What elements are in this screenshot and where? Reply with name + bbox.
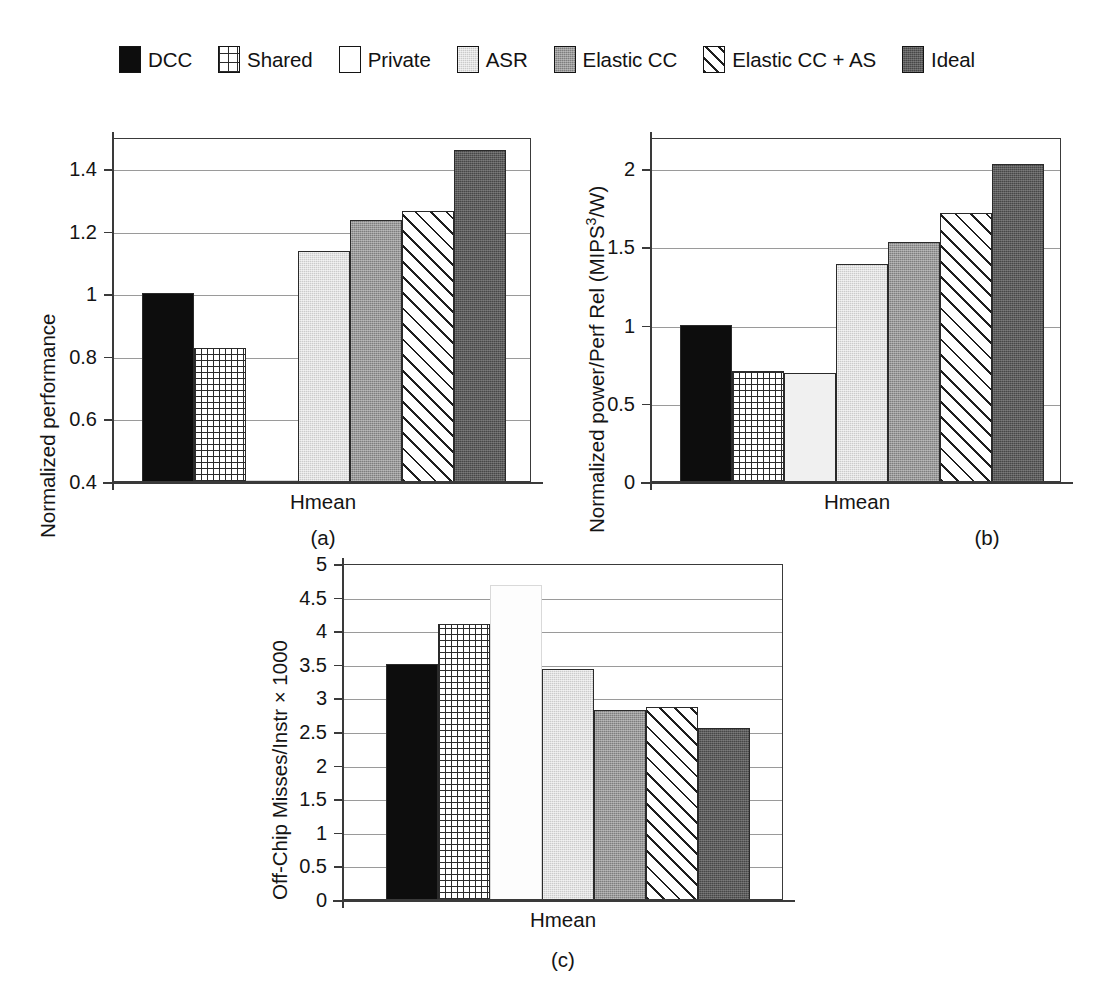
y-tick-mark bbox=[642, 404, 650, 406]
legend-item-ideal: Ideal bbox=[902, 46, 975, 73]
bar-elastic-cc bbox=[594, 710, 646, 899]
legend-label: Ideal bbox=[931, 48, 975, 72]
y-tick-label: 0.6 bbox=[43, 408, 97, 431]
panel-b-plot-area bbox=[651, 138, 1061, 482]
panel-b-x-axis-title: Hmean bbox=[747, 490, 967, 514]
y-tick-label: 0.5 bbox=[581, 392, 635, 415]
y-tick-mark bbox=[334, 833, 342, 835]
y-tick-label: 0 bbox=[581, 471, 635, 494]
x-axis-line bbox=[333, 900, 795, 902]
y-tick-mark bbox=[104, 357, 112, 359]
panel-c: Off-Chip Misses/Instr × 1000 Hmean (c) 0… bbox=[240, 552, 840, 972]
y-tick-mark bbox=[334, 564, 342, 566]
bar-elastic-cc bbox=[350, 220, 402, 481]
bars-layer bbox=[344, 565, 782, 899]
y-axis-line bbox=[342, 558, 344, 908]
legend-label: Shared bbox=[247, 48, 313, 72]
y-axis-line bbox=[650, 132, 652, 490]
legend-item-elastic-cc: Elastic CC bbox=[554, 46, 678, 73]
y-axis-line bbox=[112, 132, 114, 490]
y-tick-label: 1.2 bbox=[43, 220, 97, 243]
panel-b-y-axis-superscript: 3 bbox=[583, 218, 599, 226]
bar-asr bbox=[836, 264, 888, 481]
medium-gray-swatch bbox=[554, 46, 576, 73]
y-tick-mark bbox=[642, 169, 650, 171]
panel-c-caption: (c) bbox=[453, 948, 673, 972]
y-tick-mark bbox=[334, 665, 342, 667]
legend-label: Elastic CC bbox=[583, 48, 678, 72]
panel-a-plot-area bbox=[113, 138, 531, 482]
x-axis-line bbox=[103, 482, 543, 484]
y-tick-label: 1 bbox=[581, 314, 635, 337]
bar-ideal bbox=[992, 164, 1044, 481]
y-tick-label: 4 bbox=[273, 620, 327, 643]
y-tick-label: 1 bbox=[273, 821, 327, 844]
legend-label: Private bbox=[368, 48, 431, 72]
bar-private bbox=[784, 373, 836, 481]
legend-label: Elastic CC + AS bbox=[732, 48, 876, 72]
y-tick-label: 0 bbox=[273, 889, 327, 912]
y-tick-mark bbox=[642, 247, 650, 249]
bar-ideal bbox=[698, 728, 750, 899]
panel-b-y-axis-title-post: /W) bbox=[585, 186, 608, 218]
y-tick-label: 1.4 bbox=[43, 158, 97, 181]
y-tick-mark bbox=[334, 866, 342, 868]
y-tick-mark bbox=[642, 326, 650, 328]
bar-dcc bbox=[142, 293, 194, 481]
y-tick-label: 3 bbox=[273, 687, 327, 710]
y-tick-label: 0.8 bbox=[43, 345, 97, 368]
y-tick-mark bbox=[334, 631, 342, 633]
bar-ideal bbox=[454, 150, 506, 481]
panel-b: Normalized power/Perf Rel (MIPS3/W) Hmea… bbox=[547, 118, 1094, 538]
y-tick-mark bbox=[334, 732, 342, 734]
light-gray-swatch bbox=[457, 46, 479, 73]
bar-private bbox=[246, 480, 298, 481]
y-tick-label: 1.5 bbox=[273, 788, 327, 811]
x-axis-line bbox=[641, 482, 1073, 484]
y-tick-mark bbox=[104, 232, 112, 234]
bar-shared bbox=[438, 624, 490, 899]
bars-layer bbox=[652, 139, 1060, 481]
y-tick-label: 0.5 bbox=[273, 855, 327, 878]
bar-private bbox=[490, 585, 542, 899]
legend-label: DCC bbox=[148, 48, 192, 72]
y-tick-label: 3.5 bbox=[273, 653, 327, 676]
bar-elastic-cc-as bbox=[940, 213, 992, 481]
y-tick-mark bbox=[334, 799, 342, 801]
panel-c-plot-area bbox=[343, 564, 783, 900]
panel-a: Normalized performance Hmean (a) 0.40.60… bbox=[0, 118, 560, 538]
y-tick-label: 2 bbox=[273, 754, 327, 777]
bar-shared bbox=[194, 348, 246, 481]
bar-dcc bbox=[386, 664, 438, 899]
white-swatch bbox=[339, 46, 361, 73]
grid-hatch-swatch bbox=[218, 46, 240, 73]
legend-item-elastic-cc-as: Elastic CC + AS bbox=[703, 46, 876, 73]
panel-c-x-axis-title: Hmean bbox=[453, 908, 673, 932]
bar-elastic-cc-as bbox=[402, 211, 454, 482]
y-tick-mark bbox=[104, 482, 112, 484]
solid-black-swatch bbox=[119, 46, 141, 73]
y-tick-label: 4.5 bbox=[273, 586, 327, 609]
legend-label: ASR bbox=[486, 48, 528, 72]
legend-item-shared: Shared bbox=[218, 46, 313, 73]
bar-dcc bbox=[680, 325, 732, 481]
y-tick-mark bbox=[334, 698, 342, 700]
legend-item-dcc: DCC bbox=[119, 46, 192, 73]
bar-asr bbox=[298, 251, 350, 481]
legend-item-private: Private bbox=[339, 46, 431, 73]
y-tick-mark bbox=[642, 482, 650, 484]
y-tick-mark bbox=[334, 598, 342, 600]
panel-b-caption: (b) bbox=[877, 526, 1094, 550]
y-tick-label: 1.5 bbox=[581, 236, 635, 259]
diagonal-hatch-swatch bbox=[703, 46, 725, 73]
y-tick-mark bbox=[104, 419, 112, 421]
y-tick-label: 0.4 bbox=[43, 471, 97, 494]
panel-a-caption: (a) bbox=[213, 526, 433, 550]
legend-item-asr: ASR bbox=[457, 46, 528, 73]
panel-a-x-axis-title: Hmean bbox=[213, 490, 433, 514]
bar-elastic-cc-as bbox=[646, 707, 698, 899]
bar-elastic-cc bbox=[888, 242, 940, 481]
y-tick-mark bbox=[334, 766, 342, 768]
y-tick-label: 5 bbox=[273, 553, 327, 576]
y-tick-mark bbox=[104, 169, 112, 171]
